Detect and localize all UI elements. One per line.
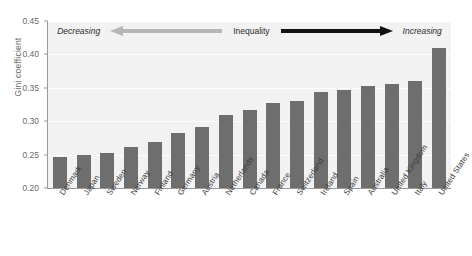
y-tick-label: 0.40 — [22, 49, 39, 59]
bar — [243, 110, 257, 188]
bar — [361, 86, 375, 188]
bar — [385, 84, 399, 188]
arrow-right-icon — [281, 26, 393, 36]
y-tick-label: 0.45 — [22, 16, 39, 26]
bar — [148, 142, 162, 188]
bar — [408, 81, 422, 188]
bar — [314, 92, 328, 188]
bar — [77, 155, 91, 188]
bar — [432, 48, 446, 188]
plot-area — [48, 21, 451, 188]
y-tick-label: 0.35 — [22, 83, 39, 93]
bar — [171, 133, 185, 188]
y-tick-label: 0.20 — [22, 183, 39, 193]
increasing-label: Increasing — [403, 26, 442, 36]
decreasing-label: Decreasing — [57, 26, 100, 36]
bar — [195, 127, 209, 188]
inequality-direction-annotation: Decreasing Inequality Increasing — [48, 22, 451, 40]
arrow-left-icon — [110, 26, 222, 36]
bar — [53, 157, 67, 188]
inequality-label: Inequality — [228, 26, 274, 36]
bar-series — [48, 21, 451, 188]
y-axis-ticks: 0.200.250.300.350.400.45 — [0, 0, 48, 256]
y-tick-label: 0.25 — [22, 150, 39, 160]
bar — [337, 90, 351, 188]
bar — [219, 115, 233, 188]
bar — [266, 103, 280, 188]
bar — [124, 147, 138, 188]
bar — [290, 101, 304, 189]
x-axis-line — [47, 188, 451, 189]
y-tick-label: 0.30 — [22, 116, 39, 126]
bar — [100, 153, 114, 188]
